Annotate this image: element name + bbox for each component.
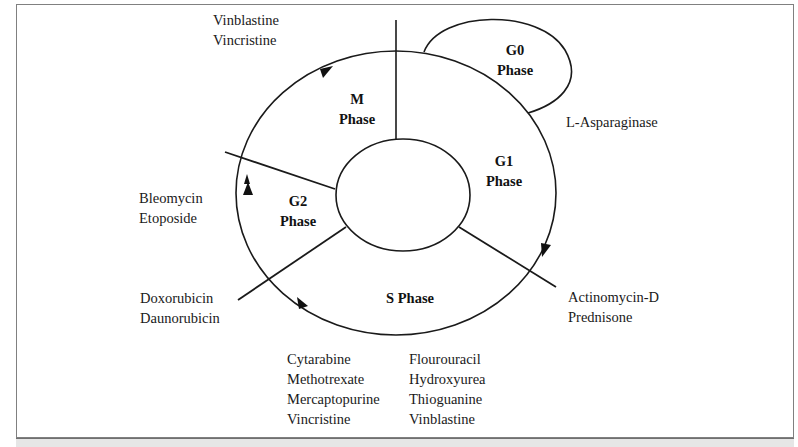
drug-bleomycin: Bleomycin: [139, 188, 203, 208]
cell-cycle-diagram: [0, 0, 798, 447]
drugs-g2-phase: Bleomycin Etoposide: [139, 188, 203, 228]
phase-g0-line1: G0: [485, 40, 545, 60]
phase-g0-line2: Phase: [485, 60, 545, 80]
phase-s-line1: S Phase: [370, 288, 450, 308]
phase-label-g0: G0 Phase: [485, 40, 545, 80]
phase-label-g1: G1 Phase: [474, 151, 534, 191]
drugs-g0-g1: L-Asparaginase: [566, 112, 658, 132]
arrow-g2-phase-icon: [244, 174, 250, 184]
phase-g2-line1: G2: [268, 191, 328, 211]
drugs-g1-s-boundary: Actinomycin-D Prednisone: [568, 287, 659, 327]
phase-label-s: S Phase: [370, 288, 450, 308]
drug-l-asparaginase: L-Asparaginase: [566, 112, 658, 132]
phase-g1-line2: Phase: [474, 171, 534, 191]
phase-m-line2: Phase: [322, 109, 392, 129]
phase-label-m: M Phase: [322, 89, 392, 129]
drug-prednisone: Prednisone: [568, 307, 659, 327]
phase-label-g2: G2 Phase: [268, 191, 328, 231]
drug-methotrexate: Methotrexate: [287, 369, 380, 389]
drug-vinblastine: Vinblastine: [213, 10, 279, 30]
phase-g2-line2: Phase: [268, 211, 328, 231]
drug-thioguanine: Thioguanine: [409, 389, 486, 409]
drug-cytarabine: Cytarabine: [287, 349, 380, 369]
drug-daunorubicin: Daunorubicin: [140, 308, 220, 328]
inner-ellipse: [336, 139, 470, 251]
drugs-s-phase-col2: Flourouracil Hydroxyurea Thioguanine Vin…: [409, 349, 486, 429]
drug-flourouracil: Flourouracil: [409, 349, 486, 369]
phase-g1-line1: G1: [474, 151, 534, 171]
drug-doxorubicin: Doxorubicin: [140, 288, 220, 308]
arrow-s-phase-icon: [297, 297, 308, 309]
drugs-s-phase-col1: Cytarabine Methotrexate Mercaptopurine V…: [287, 349, 380, 429]
drug-hydroxyurea: Hydroxyurea: [409, 369, 486, 389]
drug-vincristine-s: Vincristine: [287, 409, 380, 429]
phase-m-line1: M: [322, 89, 392, 109]
drugs-m-phase: Vinblastine Vincristine: [213, 10, 279, 50]
drug-etoposide: Etoposide: [139, 208, 203, 228]
drug-actinomycin-d: Actinomycin-D: [568, 287, 659, 307]
divider-m-g2: [225, 152, 335, 189]
drug-vinblastine-s: Vinblastine: [409, 409, 486, 429]
drug-mercaptopurine: Mercaptopurine: [287, 389, 380, 409]
divider-g1-s: [459, 227, 556, 287]
divider-g2-s: [238, 227, 346, 300]
drug-vincristine: Vincristine: [213, 30, 279, 50]
arrow-g1-phase-icon: [541, 243, 551, 257]
drugs-g2-s-boundary: Doxorubicin Daunorubicin: [140, 288, 220, 328]
